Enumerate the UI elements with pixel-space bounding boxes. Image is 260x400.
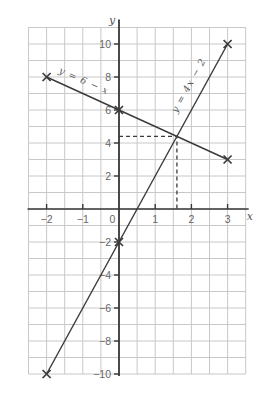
y-tick-label: 10 bbox=[99, 38, 111, 50]
intersection-dashed-guides bbox=[119, 136, 177, 209]
y-axis-label: y bbox=[108, 14, 116, 27]
y-tick-label: 8 bbox=[105, 71, 111, 83]
equation-label: y = 4x − 2 bbox=[168, 56, 208, 115]
y-tick-label: −8 bbox=[99, 335, 111, 347]
y-tick-label: 4 bbox=[105, 137, 111, 149]
x-tick-label: 3 bbox=[225, 213, 231, 225]
x-axis-label: x bbox=[247, 210, 254, 223]
x-tick-label: 0 bbox=[110, 213, 116, 225]
axis-letters: xy bbox=[108, 14, 254, 223]
graph-figure: −2−10123108642−2−4−6−8−10xyy = 6 − xy = … bbox=[0, 0, 260, 400]
y-tick-label: −10 bbox=[93, 368, 111, 380]
y-tick-label: −2 bbox=[99, 236, 111, 248]
y-tick-label: −6 bbox=[99, 302, 111, 314]
y-tick-label: 2 bbox=[105, 170, 111, 182]
x-tick-label: 2 bbox=[188, 213, 194, 225]
x-tick-label: −1 bbox=[77, 213, 89, 225]
graph-canvas: −2−10123108642−2−4−6−8−10xyy = 6 − xy = … bbox=[0, 0, 260, 400]
x-tick-label: −2 bbox=[41, 213, 53, 225]
x-tick-label: 1 bbox=[152, 213, 158, 225]
grid bbox=[29, 28, 246, 375]
